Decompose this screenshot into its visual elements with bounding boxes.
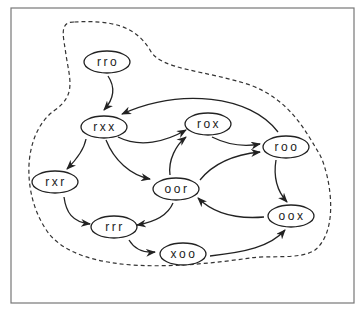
node-xoo: xoo — [160, 243, 206, 265]
node-label: oox — [279, 209, 306, 223]
node-label: oor — [165, 182, 190, 196]
node-label: rox — [197, 117, 221, 131]
node-rxr: rxr — [32, 171, 78, 193]
node-oox: oox — [268, 205, 314, 227]
node-label: rxr — [45, 175, 67, 189]
node-rro: rro — [84, 51, 130, 73]
node-roo: roo — [263, 136, 309, 158]
node-label: xoo — [171, 247, 198, 261]
node-label: roo — [275, 140, 300, 154]
node-oor: oor — [153, 178, 199, 200]
node-label: rxx — [93, 120, 117, 134]
node-label: rro — [97, 55, 119, 69]
node-rxx: rxx — [81, 116, 127, 138]
diagram-canvas: rrorxxroxroorxroorrrrooxxoo — [0, 0, 364, 311]
node-rox: rox — [185, 113, 231, 135]
node-rrr: rrr — [91, 216, 137, 238]
node-label: rrr — [105, 220, 125, 234]
